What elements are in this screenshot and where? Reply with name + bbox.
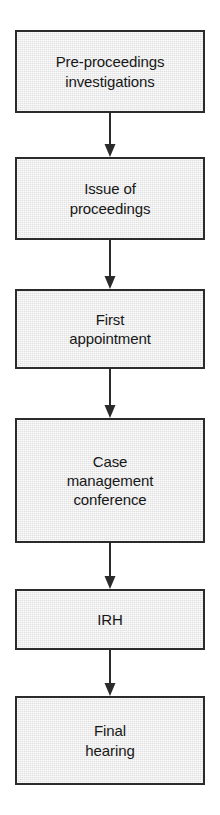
connector-arrow-3 [105, 369, 116, 418]
flow-node-label: First appointment [63, 310, 156, 348]
connector-arrow-2 [105, 240, 116, 289]
flow-node-final-hearing: Final hearing [15, 696, 205, 785]
flow-node-label: Final hearing [79, 721, 140, 759]
flow-node-case-management-conference: Case management conference [15, 418, 205, 543]
flow-node-first-appointment: First appointment [15, 289, 205, 369]
flow-node-pre-proceedings-investigations: Pre-proceedings investigations [15, 30, 205, 113]
flowchart-canvas: Pre-proceedings investigations Issue of … [0, 0, 220, 815]
flow-node-issue-of-proceedings: Issue of proceedings [15, 157, 205, 240]
connector-arrow-4 [105, 543, 116, 589]
connector-arrow-1 [105, 113, 116, 157]
flow-node-label: Case management conference [61, 452, 160, 510]
connector-arrow-5 [105, 650, 116, 696]
flow-node-irh: IRH [15, 589, 205, 650]
flowchart-connectors-layer [0, 0, 220, 815]
flow-node-label: Pre-proceedings investigations [50, 52, 171, 90]
flow-node-label: IRH [91, 610, 129, 629]
flow-node-label: Issue of proceedings [64, 179, 157, 217]
